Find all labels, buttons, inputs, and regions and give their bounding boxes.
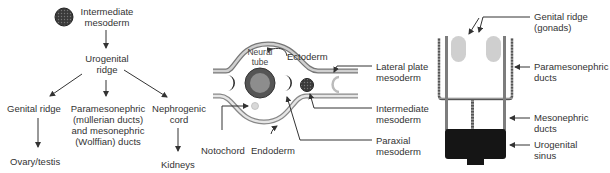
label-line: Nephrogenic	[150, 103, 208, 114]
nephrogenic-cord-label: Nephrogenic cord	[150, 103, 208, 125]
label-line: mesoderm	[376, 146, 421, 157]
intermediate-mesoderm-icon	[55, 8, 73, 26]
urogenital-sinus-label: Urogenital sinus	[534, 139, 577, 161]
label-line: Paramesonephric	[534, 61, 608, 72]
genital-ridge-label: Genital ridge	[7, 103, 61, 114]
label-line: sinus	[534, 150, 577, 161]
genital-ridge-gonads-label: Genital ridge (gonads)	[534, 11, 588, 33]
lateral-plate-mesoderm-label: Lateral plate mesoderm	[376, 61, 428, 83]
label-line: Mesonephric	[534, 112, 588, 123]
label-line: tube	[244, 57, 276, 67]
paramesonephric-ducts-label: Paramesonephric ducts	[534, 61, 608, 83]
label-line: Paramesonephric	[68, 103, 148, 114]
label-line: Intermediate	[78, 6, 136, 17]
label-line: ducts	[534, 72, 608, 83]
notochord-icon	[252, 103, 259, 110]
neural-tube-label: Neural tube	[244, 47, 276, 67]
lateral-plate-icon	[333, 77, 339, 92]
kidneys-label: Kidneys	[161, 159, 195, 170]
ovary-testis-label: Ovary/testis	[10, 156, 60, 167]
notochord-label: Notochord	[201, 145, 245, 156]
label-line: Genital ridge	[534, 11, 588, 22]
label-line: Neural	[244, 47, 276, 57]
label-line: (Wolffian) ducts	[68, 136, 148, 147]
duct-diagram-graphics	[439, 17, 530, 165]
paraxial-mesoderm-label: Paraxial mesoderm	[376, 135, 421, 157]
label-line: ridge	[78, 64, 136, 75]
gonad-left-icon	[451, 36, 466, 62]
label-line: (müllerian ducts)	[68, 114, 148, 125]
label-line: (gonads)	[534, 22, 588, 33]
label-line: ducts	[534, 123, 588, 134]
intermediate-mesoderm-label: Intermediate mesoderm	[78, 6, 136, 28]
urogenital-sinus-icon	[445, 129, 506, 159]
label-line: Intermediate	[376, 103, 429, 114]
somite-left-icon	[227, 75, 235, 91]
ducts-label: Paramesonephric (müllerian ducts) and me…	[68, 103, 148, 147]
label-line: mesoderm	[78, 17, 136, 28]
mesonephric-ducts-label: Mesonephric ducts	[534, 112, 588, 134]
endoderm-label: Endoderm	[251, 145, 295, 156]
intermediate-mesoderm-cross-label: Intermediate mesoderm	[376, 103, 429, 125]
label-line: Lateral plate	[376, 61, 428, 72]
label-line: Paraxial	[376, 135, 421, 146]
label-line: cord	[150, 114, 208, 125]
label-line: mesoderm	[376, 72, 428, 83]
urogenital-ridge-label: Urogenital ridge	[78, 53, 136, 75]
intermediate-mesoderm-cross-icon	[301, 79, 314, 92]
label-line: Urogenital	[78, 53, 136, 64]
somite-right-icon	[284, 75, 292, 91]
label-line: and mesonephric	[68, 125, 148, 136]
ectoderm-label: Ectoderm	[287, 51, 328, 62]
label-line: mesoderm	[376, 114, 429, 125]
gonad-right-icon	[486, 36, 501, 62]
label-line: Urogenital	[534, 139, 577, 150]
